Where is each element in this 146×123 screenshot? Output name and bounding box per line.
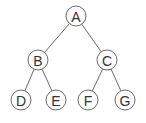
node-label: C [102, 53, 112, 69]
node-label: B [33, 53, 42, 69]
tree-node-a: A [66, 6, 86, 26]
node-label: D [16, 93, 26, 109]
node-label: F [84, 93, 93, 109]
tree-nodes: ABCDEFG [11, 6, 135, 110]
tree-node-e: E [46, 90, 66, 110]
tree-node-d: D [11, 90, 31, 110]
edge-c-f [92, 69, 102, 91]
edge-b-d [25, 69, 34, 91]
node-label: A [71, 9, 81, 25]
edge-b-e [42, 69, 52, 91]
binary-tree-diagram: ABCDEFG [0, 0, 146, 123]
tree-node-g: G [115, 90, 135, 110]
edge-a-c [82, 24, 101, 52]
tree-node-c: C [97, 50, 117, 70]
node-label: G [120, 93, 131, 109]
tree-node-b: B [28, 50, 48, 70]
node-label: E [51, 93, 60, 109]
tree-node-f: F [78, 90, 98, 110]
edge-a-b [45, 24, 70, 53]
edge-c-g [111, 69, 121, 91]
